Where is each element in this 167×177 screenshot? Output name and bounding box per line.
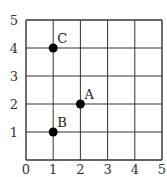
y-axis-tick-labels: 12345 — [10, 13, 18, 140]
point-label-a: A — [83, 87, 94, 102]
x-tick-label: 0 — [22, 162, 30, 177]
grid-lines — [26, 20, 162, 160]
point-label-c: C — [57, 31, 67, 46]
x-tick-label: 3 — [103, 162, 111, 177]
y-tick-label: 3 — [10, 69, 18, 84]
x-axis-tick-labels: 012345 — [22, 162, 166, 177]
y-tick-label: 4 — [10, 41, 18, 56]
coordinate-grid-chart: 012345 12345 ABC — [0, 0, 167, 177]
x-tick-label: 5 — [158, 162, 166, 177]
point-label-b: B — [57, 115, 67, 130]
x-tick-label: 2 — [76, 162, 84, 177]
x-tick-label: 4 — [131, 162, 139, 177]
data-points: ABC — [49, 31, 95, 137]
y-tick-label: 5 — [10, 13, 18, 28]
x-tick-label: 1 — [49, 162, 57, 177]
y-tick-label: 2 — [10, 97, 18, 112]
y-tick-label: 1 — [10, 125, 18, 140]
